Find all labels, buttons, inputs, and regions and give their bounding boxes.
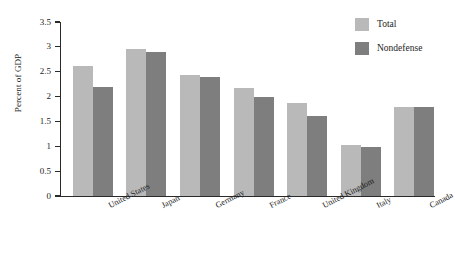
bar-nondefense [93, 87, 113, 196]
bar-group [287, 22, 327, 196]
bar-nondefense [414, 107, 434, 196]
y-tick-label: 1 [11, 142, 51, 151]
y-tick-label: 2 [11, 92, 51, 101]
y-tick-label: 3.5 [11, 18, 51, 27]
bar-total [234, 88, 254, 196]
legend-swatch-nondefense [355, 42, 369, 55]
legend-label-total: Total [377, 18, 396, 31]
legend-swatch-total [355, 18, 369, 31]
y-tick-mark [55, 146, 60, 147]
bar-nondefense [254, 97, 274, 196]
y-tick-mark [55, 121, 60, 122]
bar-nondefense [146, 52, 166, 196]
y-axis-line [60, 22, 61, 196]
bar-group [180, 22, 220, 196]
y-tick-mark [55, 96, 60, 97]
bar-total [394, 107, 414, 196]
y-tick-mark [55, 171, 60, 172]
y-tick-label: 0.5 [11, 167, 51, 176]
y-tick-mark [55, 71, 60, 72]
bar-total [180, 75, 200, 196]
y-tick-label: 3 [11, 42, 51, 51]
y-tick-label: 2.5 [11, 67, 51, 76]
bar-group [234, 22, 274, 196]
bar-total [126, 49, 146, 196]
y-tick-mark [55, 46, 60, 47]
y-tick-label: 0 [11, 192, 51, 201]
y-tick-label: 1.5 [11, 117, 51, 126]
bar-group [126, 22, 166, 196]
bar-total [287, 103, 307, 196]
bar-group [73, 22, 113, 196]
bar-nondefense [307, 116, 327, 196]
y-tick-mark [55, 195, 60, 196]
bar-nondefense [200, 77, 220, 196]
legend-label-nondefense: Nondefense [377, 42, 422, 55]
y-tick-mark [55, 21, 60, 22]
bar-total [73, 66, 93, 196]
